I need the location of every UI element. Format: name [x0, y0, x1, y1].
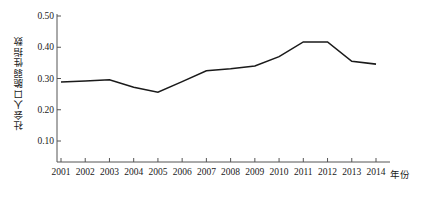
chart-figure: 社会人口脆弱性指数 0.100.200.300.400.50 200120022…: [0, 0, 426, 198]
data-series-line: [61, 42, 376, 92]
plot-area: [0, 0, 426, 198]
axis-lines: [57, 14, 390, 162]
axis-tick-marks: [57, 16, 376, 162]
